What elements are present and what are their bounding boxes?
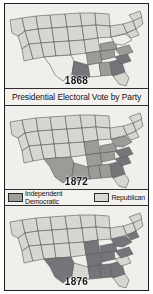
map-panel-1868: 1868	[5, 4, 148, 88]
electoral-maps-figure: 1868 Presidential Electoral Vote by Part…	[4, 3, 149, 291]
legend-swatch-republican	[94, 193, 109, 202]
figure-caption: Presidential Electoral Vote by Party	[12, 92, 141, 102]
legend-swatch-independent-democratic	[8, 193, 23, 202]
legend-label-independent-democratic: Independent Democratic	[25, 190, 62, 205]
legend-entry-republican: Republican	[94, 193, 145, 202]
year-label-1872: 1872	[5, 176, 148, 187]
map-panel-1872: 1872	[5, 106, 148, 189]
legend-label-republican: Republican	[111, 194, 145, 201]
legend-entry-independent-democratic: Independent Democratic	[8, 190, 62, 205]
year-label-1876: 1876	[5, 276, 148, 287]
year-label-1868: 1868	[5, 75, 148, 86]
map-panel-1876: 1876	[5, 206, 148, 290]
figure-caption-band: Presidential Electoral Vote by Party	[5, 88, 148, 106]
legend-1876: Unreconst'd States Democratic	[5, 290, 148, 291]
legend-1872: Independent Democratic Republican	[5, 189, 148, 206]
